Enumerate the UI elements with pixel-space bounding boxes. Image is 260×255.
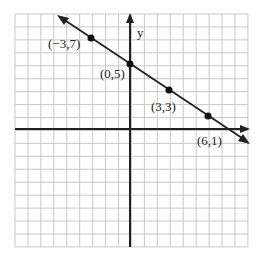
- coordinate-plane: y (−3,7) (0,5) (3,3) (6,1): [0, 0, 260, 255]
- point-0-5: [127, 61, 134, 68]
- y-axis-label: y: [137, 25, 144, 40]
- point-label-neg3-7: (−3,7): [48, 36, 80, 51]
- point-neg3-7: [88, 35, 95, 42]
- point-3-3: [166, 87, 173, 94]
- point-label-3-3: (3,3): [151, 99, 176, 114]
- point-label-0-5: (0,5): [100, 66, 125, 81]
- x-axis-arrow-icon: [240, 125, 250, 133]
- point-6-1: [205, 113, 212, 120]
- point-label-6-1: (6,1): [197, 133, 222, 148]
